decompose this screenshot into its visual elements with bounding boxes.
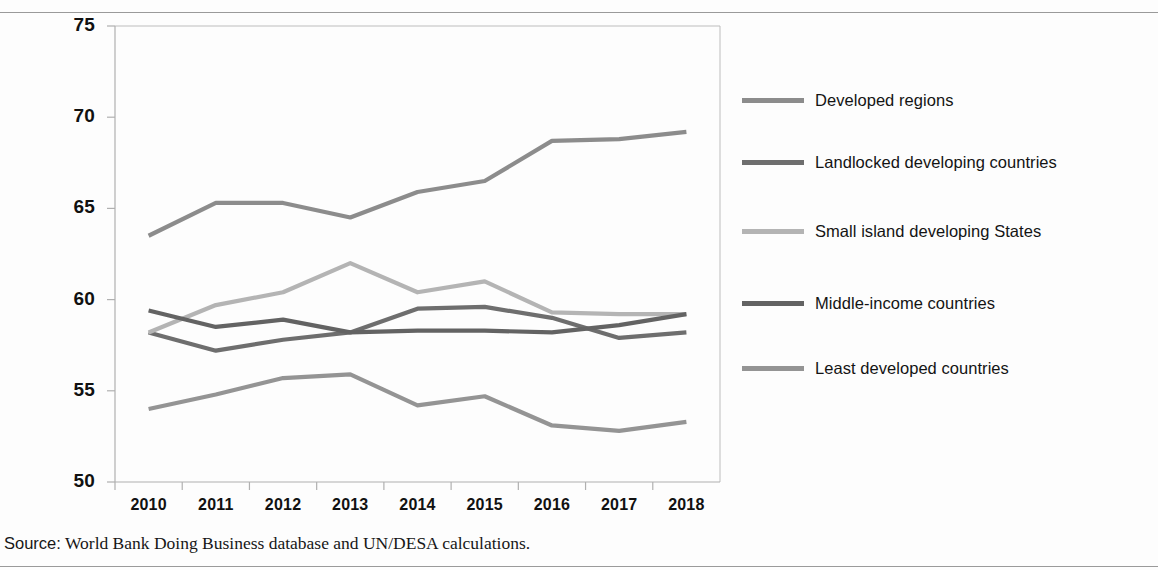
legend-item[interactable]: Small island developing States xyxy=(742,219,1041,243)
legend-line-swatch-icon xyxy=(742,301,804,306)
legend-item[interactable]: Middle-income countries xyxy=(742,291,995,315)
x-axis-tick-label: 2017 xyxy=(589,496,649,514)
legend-item-label: Middle-income countries xyxy=(815,294,995,313)
y-axis-tick-label: 60 xyxy=(35,288,95,310)
x-axis-tick-label: 2018 xyxy=(656,496,716,514)
source-note: Source: World Bank Doing Business databa… xyxy=(4,533,530,554)
chart-legend: Developed regionsLandlocked developing c… xyxy=(742,55,1152,385)
axis-frame xyxy=(115,26,720,482)
x-axis-tick-label: 2012 xyxy=(253,496,313,514)
x-axis-ticks xyxy=(115,482,653,490)
legend-item[interactable]: Developed regions xyxy=(742,88,953,112)
legend-line-swatch-icon xyxy=(742,160,804,165)
chart-figure: 757065605550 201020112012201320142015201… xyxy=(0,0,1158,570)
line-chart-canvas xyxy=(0,0,740,500)
series-line xyxy=(149,374,687,431)
x-axis-tick-label: 2010 xyxy=(119,496,179,514)
legend-item-label: Developed regions xyxy=(815,91,953,110)
x-axis-tick-label: 2014 xyxy=(388,496,448,514)
y-axis-ticks xyxy=(107,26,115,482)
series-line xyxy=(149,132,687,236)
legend-item[interactable]: Landlocked developing countries xyxy=(742,150,1057,174)
legend-item-label: Landlocked developing countries xyxy=(815,153,1057,172)
x-axis-tick-label: 2015 xyxy=(455,496,515,514)
series-line xyxy=(149,263,687,332)
y-axis-tick-label: 75 xyxy=(35,14,95,36)
y-axis-tick-label: 65 xyxy=(35,196,95,218)
x-axis-tick-label: 2011 xyxy=(186,496,246,514)
y-axis-tick-label: 50 xyxy=(35,470,95,492)
legend-item-label: Least developed countries xyxy=(815,359,1009,378)
y-axis-tick-label: 70 xyxy=(35,105,95,127)
source-text: World Bank Doing Business database and U… xyxy=(65,533,530,553)
figure-bottom-divider xyxy=(0,566,1158,567)
plot-area: 757065605550 201020112012201320142015201… xyxy=(0,0,740,500)
legend-line-swatch-icon xyxy=(742,366,804,371)
legend-item-label: Small island developing States xyxy=(815,222,1041,241)
source-label: Source: xyxy=(4,534,61,552)
legend-line-swatch-icon xyxy=(742,98,804,103)
legend-line-swatch-icon xyxy=(742,229,804,234)
series-lines-group xyxy=(149,132,687,431)
x-axis-tick-label: 2013 xyxy=(320,496,380,514)
x-axis-tick-label: 2016 xyxy=(522,496,582,514)
legend-item[interactable]: Least developed countries xyxy=(742,356,1009,380)
y-axis-tick-label: 55 xyxy=(35,379,95,401)
